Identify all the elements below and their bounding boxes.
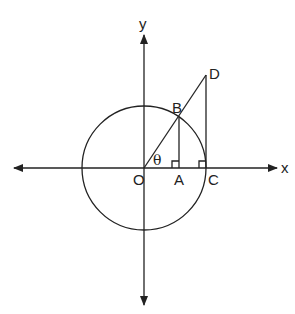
- trig-diagram: y x O A C B D θ: [0, 0, 295, 314]
- label-x: x: [281, 159, 289, 176]
- label-B: B: [172, 99, 182, 116]
- label-A: A: [174, 171, 184, 188]
- label-D: D: [209, 65, 220, 82]
- right-angle-C: [199, 161, 206, 168]
- label-C: C: [208, 171, 219, 188]
- right-angle-A: [172, 161, 179, 168]
- label-theta: θ: [153, 152, 161, 168]
- label-y: y: [139, 15, 147, 32]
- label-O: O: [133, 171, 145, 188]
